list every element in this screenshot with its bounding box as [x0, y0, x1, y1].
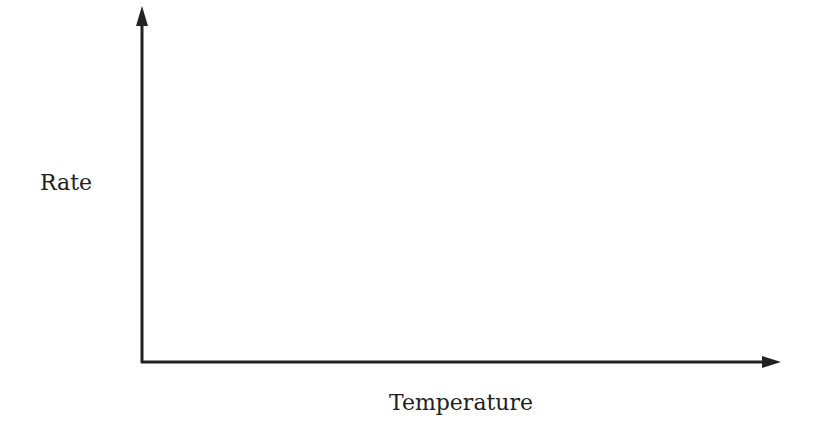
y-axis — [136, 6, 148, 363]
chart-area: Rate Temperature — [0, 0, 830, 442]
axes-svg — [0, 0, 830, 442]
y-axis-arrow-icon — [136, 6, 148, 26]
x-axis-arrow-icon — [762, 356, 781, 368]
y-axis-label: Rate — [40, 170, 92, 195]
x-axis-label: Temperature — [0, 390, 830, 415]
x-axis — [141, 356, 781, 368]
